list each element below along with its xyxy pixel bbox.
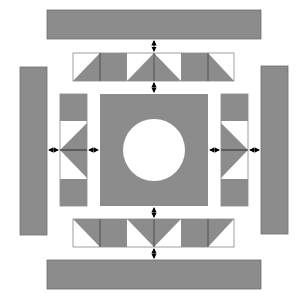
top-bar [47,10,261,39]
center-block [100,94,208,206]
bottom-strip [73,219,234,247]
left-bar [20,67,47,235]
quilt-diagram [0,0,299,298]
bottom-bar [47,260,261,289]
top-strip [73,53,234,81]
right-bar [261,66,288,234]
